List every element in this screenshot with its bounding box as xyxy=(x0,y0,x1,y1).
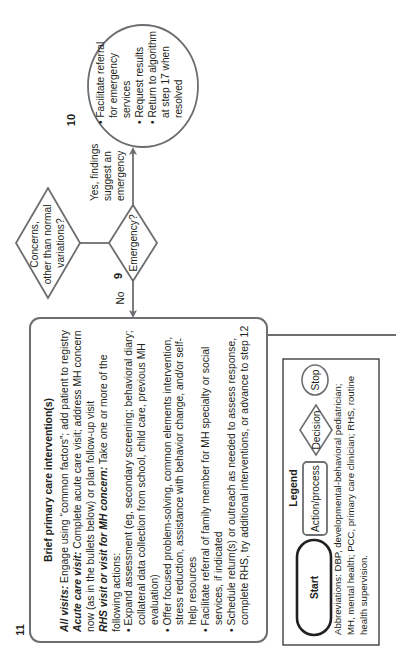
concerns-decision[interactable]: Concerns, other than normal variations? xyxy=(16,188,80,298)
legend-stop-label: Stop xyxy=(310,369,321,390)
step11-rhs-visit-cont: following actions: xyxy=(111,553,122,632)
step-number-10: 10 xyxy=(65,114,77,126)
legend-action-label: Action/process xyxy=(310,465,321,532)
emergency-diamond-label: Emergency? xyxy=(128,214,139,272)
legend-start: Start xyxy=(297,540,331,635)
legend-decision-label: Decision xyxy=(311,410,322,449)
step11-acute-care-cont: now (as in the bullets below) or plan fo… xyxy=(85,401,96,632)
legend-start-label: Start xyxy=(309,575,320,599)
step11-acute-care: Acute care visit: Complete acute care vi… xyxy=(72,330,83,633)
step11-rhs-visit: RHS visit or visit for MH concern: Take … xyxy=(98,354,109,632)
no-label: No xyxy=(115,291,126,304)
emergency-decision[interactable]: Emergency? xyxy=(109,205,157,281)
legend-stop: Stop xyxy=(302,365,328,395)
step11-title: Brief primary care intervention(s) xyxy=(43,398,54,562)
step10-stop-node[interactable]: • Facilitate referral for emergency serv… xyxy=(88,25,198,147)
rotated-flowchart: Concerns, other than normal variations? … xyxy=(14,25,396,645)
legend-action: Action/process xyxy=(303,462,327,535)
flowchart-canvas: Concerns, other than normal variations? … xyxy=(0,0,402,656)
step11-all-visits: All visits: Engage using “common factors… xyxy=(59,329,70,633)
legend: Legend Start Action/process Decision Sto… xyxy=(283,359,379,645)
step-number-9: 9 xyxy=(112,273,124,279)
yes-emergency-label: Yes, findings suggest an emergency xyxy=(89,141,126,201)
legend-title: Legend xyxy=(287,469,299,506)
step-number-11: 11 xyxy=(14,624,26,636)
step11-action-box[interactable]: Brief primary care intervention(s) All v… xyxy=(30,318,267,642)
